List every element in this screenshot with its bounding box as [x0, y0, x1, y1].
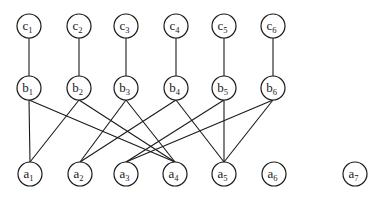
- node-a3: a3: [114, 162, 138, 186]
- nodes-layer: c1c2c3c4c5c6b1b2b3b4b5b6a1a2a3a4a5a6a7: [17, 14, 367, 186]
- node-label-subscript: 7: [354, 173, 358, 183]
- edge-b6-a3: [126, 100, 273, 162]
- node-label-subscript: 6: [273, 173, 277, 183]
- node-label-subscript: 3: [126, 87, 130, 97]
- node-label-subscript: 2: [78, 25, 82, 35]
- node-label-subscript: 3: [125, 25, 129, 35]
- edges-layer: [29, 38, 273, 162]
- node-c2: c2: [67, 14, 91, 38]
- node-label-subscript: 2: [79, 173, 83, 183]
- node-a6: a6: [262, 162, 286, 186]
- node-a5: a5: [212, 162, 236, 186]
- node-b6: b6: [261, 76, 285, 100]
- edge-b6-a5: [224, 100, 273, 162]
- graph-svg: c1c2c3c4c5c6b1b2b3b4b5b6a1a2a3a4a5a6a7: [0, 0, 377, 203]
- node-label-subscript: 3: [125, 173, 129, 183]
- node-a4: a4: [163, 162, 187, 186]
- node-c4: c4: [164, 14, 188, 38]
- node-b5: b5: [212, 76, 236, 100]
- edge-b3-a2: [80, 100, 126, 162]
- edge-b2-a1: [30, 100, 79, 162]
- node-label-subscript: 2: [79, 87, 83, 97]
- node-label-subscript: 1: [29, 87, 33, 97]
- node-label-subscript: 1: [29, 173, 33, 183]
- node-label-subscript: 5: [224, 87, 228, 97]
- node-label-subscript: 6: [272, 25, 276, 35]
- node-a7: a7: [343, 162, 367, 186]
- node-a1: a1: [18, 162, 42, 186]
- node-c5: c5: [212, 14, 236, 38]
- graph-diagram: c1c2c3c4c5c6b1b2b3b4b5b6a1a2a3a4a5a6a7: [0, 0, 377, 203]
- node-c1: c1: [17, 14, 41, 38]
- node-b1: b1: [17, 76, 41, 100]
- edge-b5-a3: [126, 100, 224, 162]
- node-label-subscript: 6: [273, 87, 277, 97]
- edge-b3-a4: [126, 100, 175, 162]
- node-b4: b4: [164, 76, 188, 100]
- edge-b1-a4: [29, 100, 175, 162]
- node-b2: b2: [67, 76, 91, 100]
- node-c3: c3: [114, 14, 138, 38]
- node-a2: a2: [68, 162, 92, 186]
- node-b3: b3: [114, 76, 138, 100]
- node-label-subscript: 5: [223, 173, 227, 183]
- node-label-subscript: 1: [28, 25, 32, 35]
- node-label-subscript: 5: [223, 25, 227, 35]
- node-c6: c6: [261, 14, 285, 38]
- edge-b1-a1: [29, 100, 30, 162]
